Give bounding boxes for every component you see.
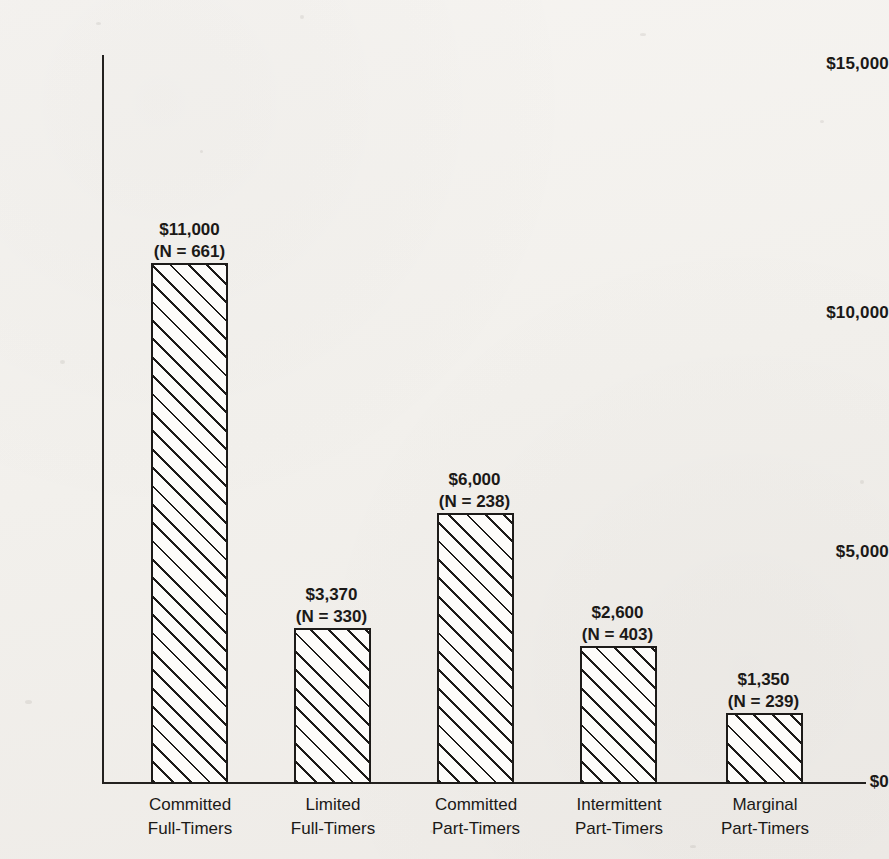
category-line-1: Limited — [253, 793, 413, 817]
category-line-1: Intermittent — [539, 793, 699, 817]
category-line-2: Part-Timers — [539, 817, 699, 841]
bar-value-amount: $11,000 — [112, 219, 267, 241]
paper-speck — [200, 150, 203, 153]
bar-value-label: $2,600 (N = 403) — [540, 602, 695, 646]
x-axis-category-label-intermittent-part-timers: Intermittent Part-Timers — [539, 793, 699, 841]
category-line-2: Full-Timers — [253, 817, 413, 841]
x-axis-category-label-committed-part-timers: Committed Part-Timers — [396, 793, 556, 841]
bar-value-amount: $3,370 — [254, 584, 409, 606]
paper-speck — [640, 33, 646, 36]
bar-sample-size: (N = 661) — [112, 241, 267, 263]
category-line-1: Committed — [110, 793, 270, 817]
category-line-2: Part-Timers — [396, 817, 556, 841]
paper-speck — [25, 700, 32, 704]
bar-sample-size: (N = 238) — [397, 491, 552, 513]
paper-speck — [690, 845, 696, 848]
bar-value-amount: $2,600 — [540, 602, 695, 624]
bar-value-label: $3,370 (N = 330) — [254, 584, 409, 628]
category-line-2: Full-Timers — [110, 817, 270, 841]
bar-value-label: $11,000 (N = 661) — [112, 219, 267, 263]
bar-sample-size: (N = 330) — [254, 606, 409, 628]
paper-speck — [60, 360, 65, 364]
category-line-1: Marginal — [685, 793, 845, 817]
bar-sample-size: (N = 239) — [686, 691, 841, 713]
bar-sample-size: (N = 403) — [540, 624, 695, 646]
category-line-2: Part-Timers — [685, 817, 845, 841]
bar-value-label: $1,350 (N = 239) — [686, 669, 841, 713]
bar-committed-full-timers — [151, 263, 228, 784]
bar-intermittent-part-timers — [580, 646, 657, 784]
x-axis-category-label-limited-full-timers: Limited Full-Timers — [253, 793, 413, 841]
y-axis-tick-label: $0 — [797, 773, 889, 790]
bar-value-amount: $6,000 — [397, 469, 552, 491]
bar-chart: $15,000 $10,000 $5,000 $0 $11,000 (N = 6… — [0, 0, 889, 859]
paper-speck — [820, 120, 824, 123]
y-axis-line — [102, 55, 104, 784]
y-axis-tick-label: $15,000 — [797, 55, 889, 72]
bar-value-amount: $1,350 — [686, 669, 841, 691]
y-axis-tick-label: $10,000 — [797, 304, 889, 321]
x-axis-category-label-marginal-part-timers: Marginal Part-Timers — [685, 793, 845, 841]
bar-limited-full-timers — [294, 628, 371, 784]
bar-value-label: $6,000 (N = 238) — [397, 469, 552, 513]
paper-speck — [300, 15, 304, 19]
x-axis-category-label-committed-full-timers: Committed Full-Timers — [110, 793, 270, 841]
paper-speck — [860, 480, 864, 484]
category-line-1: Committed — [396, 793, 556, 817]
paper-speck — [96, 22, 101, 25]
y-axis-tick-label: $5,000 — [797, 543, 889, 560]
bar-committed-part-timers — [437, 513, 514, 784]
bar-marginal-part-timers — [726, 713, 803, 784]
